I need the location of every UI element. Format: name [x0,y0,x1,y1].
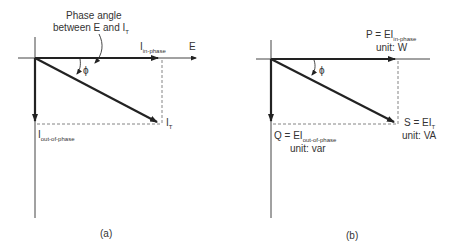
caption-b: (b) [346,230,358,241]
angle-arc-a [77,59,80,74]
total-current-vector [35,58,157,122]
real-power-unit: unit: W [376,42,407,53]
reactive-power-unit: unit: var [290,143,326,154]
angle-arc-b [312,60,315,75]
apparent-power-vector [271,59,394,122]
apparent-power-unit: unit: VA [402,130,436,141]
e-label: E [189,41,196,52]
total-current-label: IT [166,117,172,133]
in-phase-label: Iin-phase [140,41,166,57]
out-of-phase-label: Iout-of-phase [38,129,74,145]
angle-symbol-b: ϕ [319,65,325,76]
caption-a: (a) [100,228,112,239]
annotation-line1: Phase angle [66,10,122,21]
annotation-line2: between E and IT [53,22,129,38]
angle-symbol-a: ϕ [83,65,89,76]
